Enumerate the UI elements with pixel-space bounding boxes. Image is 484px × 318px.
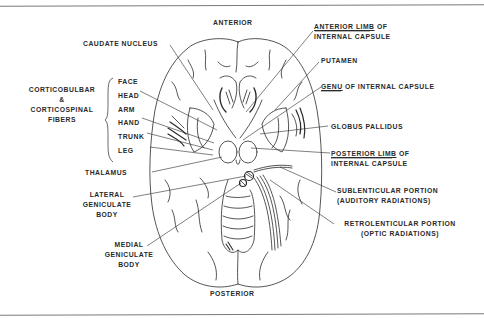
thalamus-label: THALAMUS <box>85 168 127 178</box>
somatotopy-hand: HAND <box>118 116 144 130</box>
somatotopy-leg: LEG <box>118 144 144 158</box>
somatotopy-head: HEAD <box>118 89 144 103</box>
medial-geniculate-line-2: GENICULATE <box>100 250 158 260</box>
posterior-limb-of: OF <box>397 150 410 157</box>
brain-outline <box>150 39 322 287</box>
somatotopy-face: FACE <box>118 75 144 89</box>
anterior-limb-term: ANTERIOR LIMB <box>314 23 375 30</box>
posterior-label: POSTERIOR <box>210 289 255 299</box>
somatotopy-brace <box>105 78 113 162</box>
corticobulbar-fibers-label: CORTICOBULBAR & CORTICOSPINAL FIBERS <box>24 85 100 125</box>
medial-geniculate-label: MEDIAL GENICULATE BODY <box>100 240 158 270</box>
retrolenticular-label: RETROLENTICULAR PORTION (OPTIC RADIATION… <box>335 219 465 239</box>
genu-label: GENU OF INTERNAL CAPSULE <box>321 82 434 92</box>
medial-geniculate-line-3: BODY <box>100 260 158 270</box>
anterior-label: ANTERIOR <box>213 18 253 28</box>
lateral-geniculate-line-3: BODY <box>78 210 136 220</box>
sublenticular-label: SUBLENTICULAR PORTION (AUDITORY RADIATIO… <box>337 186 438 206</box>
medial-geniculate-line-1: MEDIAL <box>100 240 158 250</box>
anterior-limb-line-2: INTERNAL CAPSULE <box>314 32 391 42</box>
lateral-geniculate-line-1: LATERAL <box>78 190 136 200</box>
fibers-line-2: & <box>24 95 100 105</box>
fibers-line-3: CORTICOSPINAL <box>24 105 100 115</box>
sublenticular-line-2: (AUDITORY RADIATIONS) <box>337 196 438 206</box>
retrolenticular-line-1: RETROLENTICULAR PORTION <box>335 219 465 229</box>
genu-rest: OF INTERNAL CAPSULE <box>343 83 435 90</box>
putamen-label: PUTAMEN <box>321 56 358 66</box>
brain-section-illustration <box>0 0 484 318</box>
somatotopy-arm: ARM <box>118 103 144 117</box>
genu-term: GENU <box>321 83 343 90</box>
anterior-limb-label: ANTERIOR LIMB OF INTERNAL CAPSULE <box>314 22 391 42</box>
lateral-geniculate-label: LATERAL GENICULATE BODY <box>78 190 136 220</box>
posterior-limb-term: POSTERIOR LIMB <box>331 150 397 157</box>
sublenticular-line-1: SUBLENTICULAR PORTION <box>337 186 438 196</box>
fibers-line-4: FIBERS <box>24 115 100 125</box>
caudate-nucleus-label: CAUDATE NUCLEUS <box>83 39 158 49</box>
posterior-limb-line-2: INTERNAL CAPSULE <box>331 159 409 169</box>
lateral-geniculate-line-2: GENICULATE <box>78 200 136 210</box>
somatotopy-trunk: TRUNK <box>118 130 144 144</box>
fibers-line-1: CORTICOBULBAR <box>24 85 100 95</box>
retrolenticular-line-2: (OPTIC RADIATIONS) <box>335 229 465 239</box>
leader-lines <box>133 31 336 246</box>
posterior-limb-label: POSTERIOR LIMB OF INTERNAL CAPSULE <box>331 149 409 169</box>
globus-pallidus-label: GLOBUS PALLIDUS <box>331 122 403 132</box>
somatotopy-list: FACE HEAD ARM HAND TRUNK LEG <box>118 75 144 158</box>
anterior-limb-of: OF <box>375 23 388 30</box>
